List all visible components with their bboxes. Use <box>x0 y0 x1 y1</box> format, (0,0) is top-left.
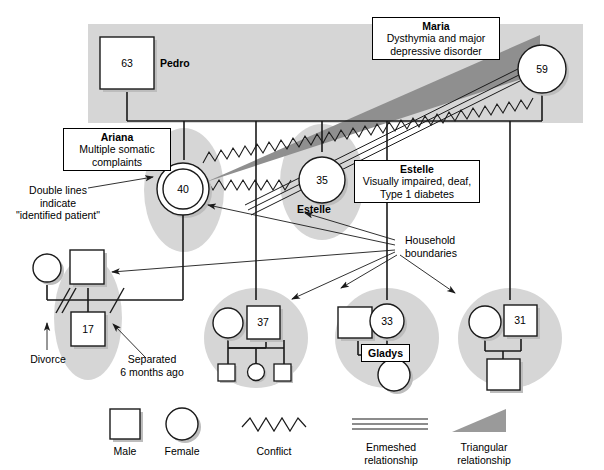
estelle-age: 35 <box>316 174 328 186</box>
separated-line2: 6 months ago <box>112 366 192 379</box>
legend-label-male: Male <box>95 445 155 458</box>
legend-enmeshed-line1: Enmeshed <box>350 441 432 454</box>
callout-estelle-text: Visually impaired, deaf, Type 1 diabetes <box>363 175 471 199</box>
annotation-identified-patient: Double lines indicate "identified patien… <box>4 184 112 222</box>
identified-patient-line2: indicate <box>4 197 112 210</box>
pedro-age: 63 <box>121 57 133 69</box>
legend-triangular-line1: Triangular <box>443 441 525 454</box>
annotation-separated: Separated 6 months ago <box>112 353 192 378</box>
identified-patient-line1: Double lines <box>4 184 112 197</box>
legend-enmeshed-line2: relationship <box>350 454 432 467</box>
legend-label-conflict: Conflict <box>244 445 304 458</box>
separated-line1: Separated <box>112 353 192 366</box>
callout-maria-text: Dysthymia and major depressive disorder <box>387 32 486 56</box>
legend-label-enmeshed: Enmeshed relationship <box>350 441 432 466</box>
callout-estelle-title: Estelle <box>359 163 475 175</box>
callout-maria-title: Maria <box>377 20 495 32</box>
child33-age: 33 <box>381 315 393 327</box>
person-pedro: 63 <box>100 37 157 92</box>
annotation-divorce: Divorce <box>18 353 78 366</box>
callout-ariana: Ariana Multiple somatic complaints <box>63 128 171 171</box>
household-boundaries-line1: Household <box>405 234 485 247</box>
label-gladys: Gladys <box>361 344 410 362</box>
legend-label-triangular: Triangular relationship <box>443 441 525 466</box>
child31-age: 31 <box>514 314 526 326</box>
callout-maria: Maria Dysthymia and major depressive dis… <box>372 17 500 60</box>
identified-patient-line3: "identified patient" <box>4 209 112 222</box>
maria-age: 59 <box>536 63 548 75</box>
label-estelle: Estelle <box>297 203 331 216</box>
callout-ariana-title: Ariana <box>68 131 166 143</box>
legend-triangular-line2: relationship <box>443 454 525 467</box>
annotation-household-boundaries: Household boundaries <box>405 234 485 259</box>
child17-age: 17 <box>82 323 94 335</box>
child37-age: 37 <box>257 316 269 328</box>
genogram-canvas: 63 59 40 35 <box>0 0 604 470</box>
label-pedro: Pedro <box>160 57 190 70</box>
genogram-figure: 63 59 40 35 <box>0 0 604 470</box>
callout-estelle: Estelle Visually impaired, deaf, Type 1 … <box>354 160 480 203</box>
ariana-age: 40 <box>177 183 189 195</box>
callout-ariana-text: Multiple somatic complaints <box>79 143 154 167</box>
legend-label-female: Female <box>152 445 212 458</box>
household-boundaries-line2: boundaries <box>405 247 485 260</box>
legend-glyphs <box>110 408 506 443</box>
